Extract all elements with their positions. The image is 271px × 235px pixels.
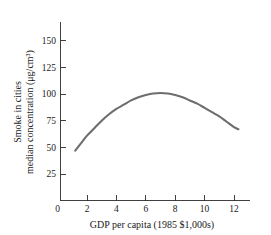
y-tick-label-75: 75 (47, 116, 57, 126)
y-tick-label-125: 125 (42, 63, 57, 73)
y-tick-label-100: 100 (42, 89, 57, 99)
y-tick-labels: 25 50 75 100 125 150 (42, 36, 57, 179)
y-axis-title-line1: Smoke in cities (12, 81, 23, 143)
x-tick-marks (87, 195, 234, 201)
x-tick-label-12: 12 (229, 204, 239, 214)
x-axis-title: GDP per capita (1985 $1,000s) (90, 219, 214, 231)
chart-canvas: 25 50 75 100 125 150 0 2 4 6 8 10 12 GD (0, 0, 271, 235)
x-tick-label-6: 6 (143, 204, 148, 214)
y-tick-marks (61, 41, 67, 174)
x-tick-label-0: 0 (55, 204, 60, 214)
x-tick-label-10: 10 (200, 204, 210, 214)
chart-figure: 25 50 75 100 125 150 0 2 4 6 8 10 12 GD (0, 0, 271, 235)
x-tick-label-2: 2 (85, 204, 90, 214)
y-tick-label-25: 25 (47, 169, 57, 179)
y-tick-label-50: 50 (47, 143, 57, 153)
smoke-concentration-curve (75, 93, 238, 151)
x-tick-labels: 0 2 4 6 8 10 12 (55, 204, 239, 214)
x-tick-label-8: 8 (173, 204, 178, 214)
y-tick-label-150: 150 (42, 36, 57, 46)
x-tick-label-4: 4 (114, 204, 119, 214)
y-axis-title-line2: median concentration (μg/cm³) (24, 50, 36, 174)
